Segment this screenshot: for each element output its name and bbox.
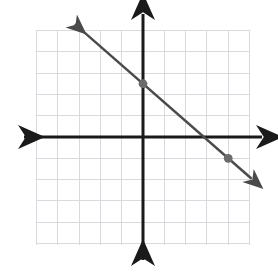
point-second bbox=[224, 154, 233, 163]
coordinate-graph-figure bbox=[0, 0, 278, 275]
point-y-intercept bbox=[139, 79, 148, 88]
coordinate-plane bbox=[0, 0, 278, 275]
